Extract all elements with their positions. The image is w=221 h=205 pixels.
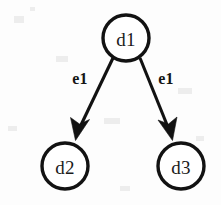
node-d1-label: d1 [116, 29, 135, 50]
node-d1[interactable]: d1 [103, 15, 149, 61]
node-d2[interactable]: d2 [42, 143, 88, 189]
graph-diagram: e1 e1 d1 d2 d3 [0, 0, 221, 205]
arrowhead-d1-d2 [71, 118, 90, 141]
node-d2-label: d2 [55, 157, 74, 178]
edge-d1-d2[interactable]: e1 [71, 58, 114, 141]
edge-line-d1-d2 [81, 58, 114, 126]
edge-line-d1-d3 [140, 58, 168, 126]
edge-label-d1-d3: e1 [158, 70, 174, 87]
node-d3[interactable]: d3 [158, 143, 204, 189]
arrowhead-d1-d3 [158, 117, 177, 141]
edge-d1-d3[interactable]: e1 [140, 58, 177, 141]
node-d3-label: d3 [171, 157, 190, 178]
edge-label-d1-d2: e1 [72, 70, 88, 87]
graph-canvas: e1 e1 d1 d2 d3 [0, 0, 221, 205]
